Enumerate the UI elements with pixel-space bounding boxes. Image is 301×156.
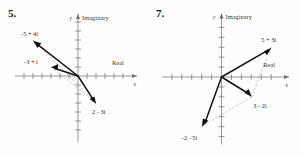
imaginary-axis-var-label: y (69, 15, 73, 21)
real-axis-label: Real (112, 59, 124, 66)
point-label-minus2-minus-5i: -2 - 5i (182, 134, 198, 141)
complex-plane-plot-5: y Imaginary Real x -5 + 4i -3 + i 2 - 3i (0, 0, 150, 156)
imaginary-axis-arrow-icon (220, 13, 224, 18)
vector-2-minus-3i (78, 76, 96, 104)
real-axis-arrow-icon (132, 74, 137, 78)
imaginary-axis-label: Imaginary (225, 13, 252, 20)
real-axis-var-label: x (285, 82, 289, 88)
imaginary-axis-arrow-icon (76, 14, 80, 19)
vector-minus2-minus-5i (202, 77, 222, 127)
figure-problem-7: 7. (150, 0, 300, 156)
imaginary-axis-var-label: y (212, 14, 216, 20)
point-label-5-plus-3i: 5 + 3i (261, 36, 276, 43)
imaginary-axis-label: Imaginary (82, 14, 109, 21)
point-label-minus5-plus-4i: -5 + 4i (21, 30, 38, 37)
point-label-3-minus-2i: 3 - 2i (253, 102, 267, 109)
figure-problem-5: 5. (0, 0, 150, 156)
vector-3-minus-2i (222, 77, 252, 97)
point-label-2-minus-3i: 2 - 3i (92, 108, 106, 115)
complex-plane-plot-7: y Imaginary Real x 5 + 3i 3 - 2i -2 - 5i (150, 0, 300, 156)
point-label-minus3-plus-i: -3 + i (24, 58, 38, 65)
exercise-figures-page: 5. (0, 0, 301, 156)
real-axis-arrow-icon (284, 75, 289, 79)
real-axis-label: Real (263, 61, 275, 68)
real-axis-var-label: x (133, 81, 137, 87)
